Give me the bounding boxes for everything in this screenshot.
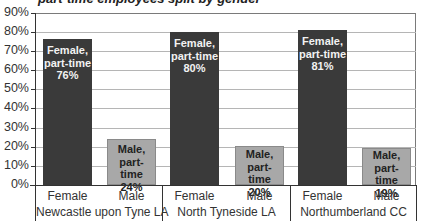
x-label-male: Male	[362, 189, 411, 203]
bar-label-line: Female,	[47, 44, 88, 56]
gridline-10	[35, 166, 416, 167]
gridline-20	[35, 147, 416, 148]
bar-label-line: part-time	[299, 48, 346, 60]
gridline-30	[35, 128, 416, 129]
x-label-male: Male	[235, 189, 284, 203]
bar-label-value: 81%	[311, 60, 333, 72]
bar-label-line: Male,	[373, 149, 401, 161]
bar-female-newcastle: Female, part-time 76%	[43, 39, 92, 185]
bar-label-line: Female,	[302, 35, 343, 47]
gridline-60	[35, 70, 416, 71]
bar-label-value: 76%	[56, 69, 78, 81]
bar-label-line: part-time	[171, 50, 218, 62]
group-label-newcastle: Newcastle upon Tyne LA	[36, 205, 162, 219]
y-axis-label: 50%	[0, 81, 29, 95]
chart-title: part-time employees split by gender	[38, 0, 261, 6]
bar-label-line: Female,	[174, 37, 215, 49]
bar-female-north-tyneside: Female, part-time 80%	[170, 32, 219, 185]
bar-male-newcastle: Male, part-time 24%	[107, 139, 156, 185]
y-axis-label: 60%	[0, 62, 29, 76]
group-label-northumberland: Northumberland CC	[291, 205, 416, 219]
y-axis-label: 70%	[0, 43, 29, 57]
gridline-50	[35, 89, 416, 90]
y-axis-label: 10%	[0, 158, 29, 172]
bar-female-northumberland: Female, part-time 81%	[298, 30, 347, 185]
y-axis	[35, 13, 36, 221]
y-axis-label: 90%	[0, 5, 29, 19]
bar-label-line: part-time	[44, 57, 91, 69]
x-label-female: Female	[43, 189, 92, 203]
y-axis-label: 0%	[0, 177, 29, 191]
y-axis-label: 30%	[0, 120, 29, 134]
bar-label-line: part-time	[119, 156, 143, 181]
x-label-female: Female	[170, 189, 219, 203]
bar-label-line: Male,	[118, 143, 146, 155]
gridline-80	[35, 32, 416, 33]
plot-area	[35, 13, 416, 185]
y-axis-label: 80%	[0, 24, 29, 38]
gridline-40	[35, 108, 416, 109]
x-axis	[30, 185, 417, 186]
bar-label-line: part-time	[247, 161, 271, 186]
bar-male-north-tyneside: Male, part-time 20%	[235, 146, 284, 185]
x-label-male: Male	[107, 189, 156, 203]
y-axis-label: 40%	[0, 100, 29, 114]
gridline-70	[35, 51, 416, 52]
group-label-north-tyneside: North Tyneside LA	[163, 205, 290, 219]
group-separator	[416, 185, 417, 221]
bar-label-value: 80%	[183, 62, 205, 74]
bar-label-line: part-time	[374, 162, 398, 187]
bar-label-line: Male,	[246, 148, 274, 160]
x-label-female: Female	[298, 189, 347, 203]
y-axis-label: 20%	[0, 139, 29, 153]
bar-male-northumberland: Male, part-time 19%	[362, 148, 411, 185]
